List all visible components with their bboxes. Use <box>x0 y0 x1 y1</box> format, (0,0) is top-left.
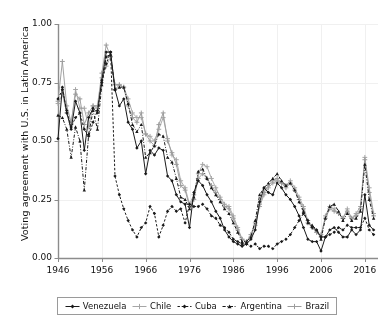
x-tick-label: 1946 <box>42 265 74 275</box>
x-tick-label: 2006 <box>305 265 337 275</box>
x-tick-label: 1966 <box>130 265 162 275</box>
y-tick-label: 0.25 <box>22 194 52 204</box>
chart-figure: Voting agreement with U.S. in Latin Amer… <box>0 0 391 328</box>
legend-label: Chile <box>150 301 171 311</box>
legend-marker-icon <box>222 302 237 311</box>
legend-item-cuba[interactable]: Cuba <box>177 301 217 311</box>
legend-marker-icon <box>287 302 302 311</box>
x-tick-label: 2016 <box>349 265 381 275</box>
legend-item-chile[interactable]: Chile <box>132 301 171 311</box>
x-tick-label: 1986 <box>217 265 249 275</box>
chart-legend: Venezuela Chile Cuba Argentina Brazil <box>57 297 337 315</box>
legend-marker-icon <box>65 302 80 311</box>
y-tick-label: 0.50 <box>22 135 52 145</box>
x-tick-label: 1996 <box>261 265 293 275</box>
legend-item-brazil[interactable]: Brazil <box>287 301 329 311</box>
legend-label: Cuba <box>195 301 217 311</box>
y-tick-label: 1.00 <box>22 18 52 28</box>
x-tick-label: 1956 <box>86 265 118 275</box>
line-chart-canvas <box>0 0 391 328</box>
legend-marker-icon <box>132 302 147 311</box>
y-tick-label: 0.00 <box>22 252 52 262</box>
legend-label: Brazil <box>305 301 329 311</box>
y-tick-label: 0.75 <box>22 77 52 87</box>
legend-label: Argentina <box>240 301 281 311</box>
legend-marker-icon <box>177 302 192 311</box>
legend-item-argentina[interactable]: Argentina <box>222 301 281 311</box>
legend-label: Venezuela <box>83 301 127 311</box>
legend-item-venezuela[interactable]: Venezuela <box>65 301 127 311</box>
x-tick-label: 1976 <box>174 265 206 275</box>
